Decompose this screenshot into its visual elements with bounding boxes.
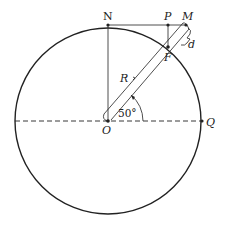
label-F: F bbox=[163, 51, 172, 64]
point-N bbox=[106, 23, 109, 26]
label-O: O bbox=[102, 124, 111, 137]
label-Q: Q bbox=[206, 116, 215, 129]
label-P: P bbox=[163, 10, 172, 23]
strip-end-bottom bbox=[103, 114, 107, 121]
diagram-canvas: N P M F d R O Q 50° bbox=[0, 0, 226, 229]
label-M: M bbox=[181, 10, 194, 23]
point-P bbox=[166, 23, 169, 26]
geometry-diagram: N P M F d R O Q 50° bbox=[0, 0, 226, 229]
point-M bbox=[184, 23, 187, 26]
label-angle: 50° bbox=[118, 107, 137, 119]
point-F bbox=[166, 45, 170, 49]
strip-edge-upper bbox=[104, 23, 183, 114]
point-O bbox=[106, 119, 110, 123]
label-d: d bbox=[188, 38, 195, 51]
label-R: R bbox=[119, 72, 128, 85]
point-Q bbox=[200, 119, 203, 122]
brace-R bbox=[133, 77, 135, 80]
label-N: N bbox=[103, 10, 113, 23]
angle-arrowhead bbox=[131, 95, 135, 100]
